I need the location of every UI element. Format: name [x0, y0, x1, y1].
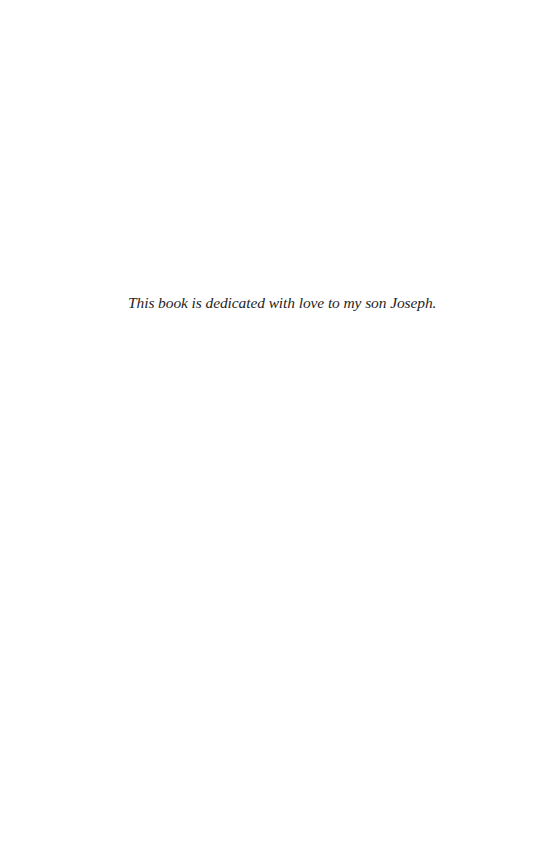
dedication-page: This book is dedicated with love to my s… — [0, 0, 537, 859]
dedication-text: This book is dedicated with love to my s… — [128, 293, 398, 313]
